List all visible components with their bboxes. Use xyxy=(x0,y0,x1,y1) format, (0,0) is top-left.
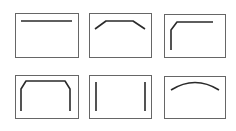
panel-2-frame xyxy=(90,14,152,58)
panel-3-frame xyxy=(165,15,226,58)
panel-5-frame xyxy=(90,76,152,119)
panel-straight-top-line xyxy=(16,14,79,58)
panel-top-left-corner xyxy=(165,15,226,58)
panel-1-frame xyxy=(16,14,79,58)
shape-panels-diagram xyxy=(0,0,236,131)
panel-chamfered-top-line xyxy=(90,14,152,58)
panel-arc xyxy=(165,77,226,119)
panel-chamfered-arch xyxy=(16,76,79,119)
panel-parallel-verticals xyxy=(90,76,152,119)
